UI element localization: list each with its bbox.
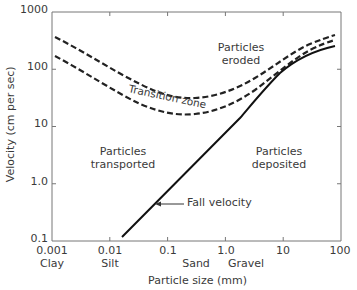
x-name-gravel: Gravel bbox=[228, 258, 264, 271]
particles-eroded-label: Particles eroded bbox=[196, 42, 286, 67]
y-tick-1000: 1000 bbox=[4, 4, 48, 17]
erosion-upper-dashed-curve bbox=[55, 35, 335, 98]
eroded-line2: eroded bbox=[196, 55, 286, 68]
x-name-clay: Clay bbox=[40, 258, 64, 271]
x-tick-0.001: 0.001 bbox=[36, 245, 68, 258]
x-tick-10: 10 bbox=[276, 245, 290, 258]
fall-velocity-arrow bbox=[155, 202, 184, 207]
x-tick-1.0: 1.0 bbox=[217, 245, 235, 258]
eroded-line1: Particles bbox=[196, 42, 286, 55]
deposited-line2: deposited bbox=[234, 159, 324, 172]
transition-zone-label: Transition zone bbox=[127, 82, 208, 110]
x-tick-100: 100 bbox=[330, 245, 351, 258]
x-name-silt: Silt bbox=[101, 258, 118, 271]
deposited-line1: Particles bbox=[234, 146, 324, 159]
particles-deposited-label: Particles deposited bbox=[234, 146, 324, 171]
particles-transported-label: Particles transported bbox=[78, 146, 168, 171]
transported-line2: transported bbox=[78, 159, 168, 172]
y-axis-title: Velocity (cm per sec) bbox=[5, 59, 18, 189]
x-axis-title: Particle size (mm) bbox=[148, 275, 247, 288]
x-tick-0.01: 0.01 bbox=[98, 245, 123, 258]
x-tick-0.1: 0.1 bbox=[159, 245, 177, 258]
fall-velocity-label: Fall velocity bbox=[187, 197, 252, 210]
transported-line1: Particles bbox=[78, 146, 168, 159]
x-name-sand: Sand bbox=[182, 258, 210, 271]
